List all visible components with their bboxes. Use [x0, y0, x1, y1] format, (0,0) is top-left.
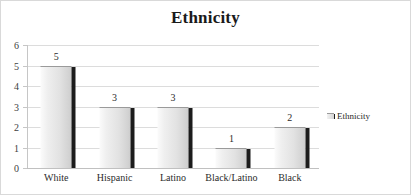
- y-axis-tick-label: 4: [1, 81, 19, 92]
- legend-swatch-icon: [327, 113, 334, 119]
- bar[interactable]: [41, 66, 72, 169]
- x-axis-tick-label: White: [44, 172, 68, 183]
- x-axis-tick-label: Hispanic: [97, 172, 133, 183]
- chart-container: Ethnicity 53312 WhiteHispanicLatinoBlack…: [0, 0, 411, 195]
- bar[interactable]: [216, 148, 247, 169]
- y-axis-tick-mark: [23, 107, 27, 108]
- x-axis-labels: WhiteHispanicLatinoBlack/LatinoBlack: [27, 172, 319, 192]
- bar-slot: 1: [202, 45, 260, 168]
- y-axis-tick-mark: [23, 86, 27, 87]
- bars-layer: 53312: [27, 45, 319, 168]
- bar-shadow: [305, 128, 309, 168]
- y-axis-tick-mark: [23, 45, 27, 46]
- y-axis-tick-label: 5: [1, 60, 19, 71]
- bar-slot: 5: [27, 45, 85, 168]
- y-axis-tick-mark: [23, 168, 27, 169]
- chart-title: Ethnicity: [1, 8, 410, 28]
- bar-slot: 3: [144, 45, 202, 168]
- bar-value-label: 3: [112, 92, 117, 103]
- bar-value-label: 3: [170, 92, 175, 103]
- y-axis-tick-label: 0: [1, 163, 19, 174]
- y-axis-tick-label: 3: [1, 101, 19, 112]
- x-axis-line: [27, 168, 319, 169]
- bar-shadow: [188, 108, 192, 169]
- bar-value-label: 1: [229, 133, 234, 144]
- bar[interactable]: [157, 107, 188, 169]
- x-axis-tick-label: Latino: [160, 172, 186, 183]
- y-axis-tick-label: 6: [1, 40, 19, 51]
- bar[interactable]: [274, 127, 305, 168]
- bar-shadow: [247, 149, 251, 169]
- y-axis-tick-mark: [23, 148, 27, 149]
- bar-value-label: 5: [54, 51, 59, 62]
- x-axis-tick-label: Black/Latino: [205, 172, 257, 183]
- y-axis-tick-label: 2: [1, 122, 19, 133]
- bar-shadow: [130, 108, 134, 169]
- bar[interactable]: [99, 107, 130, 169]
- legend-label: Ethnicity: [337, 111, 370, 121]
- y-axis-tick-mark: [23, 66, 27, 67]
- x-axis-tick-label: Black: [278, 172, 301, 183]
- bar-slot: 3: [85, 45, 143, 168]
- bar-shadow: [72, 67, 76, 169]
- bar-value-label: 2: [287, 112, 292, 123]
- y-axis-tick-label: 1: [1, 142, 19, 153]
- bar-slot: 2: [261, 45, 319, 168]
- y-axis-tick-mark: [23, 127, 27, 128]
- chart-legend: Ethnicity: [327, 111, 370, 121]
